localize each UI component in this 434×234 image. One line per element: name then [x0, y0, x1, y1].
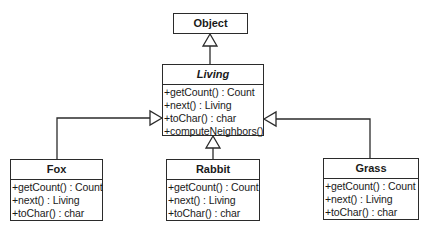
operation: +toChar() : char [325, 206, 418, 219]
class-grass[interactable]: Grass +getCount() : Count +next() : Livi… [323, 158, 419, 220]
class-object[interactable]: Object [173, 13, 248, 34]
class-name: Grass [324, 159, 418, 179]
operation: +next() : Living [325, 193, 418, 206]
fox-to-living-line [57, 118, 150, 159]
operation: +getCount() : Count [168, 181, 259, 194]
operation: +toChar() : char [12, 207, 102, 220]
operation: +getCount() : Count [164, 86, 263, 99]
operation: +next() : Living [164, 99, 263, 112]
class-living[interactable]: Living +getCount() : Count +next() : Liv… [162, 64, 264, 136]
operation: +toChar() : char [168, 207, 259, 220]
class-fox[interactable]: Fox +getCount() : Count +next() : Living… [10, 159, 103, 221]
grass-generalization-arrow-icon [264, 112, 276, 126]
operation: +getCount() : Count [325, 180, 418, 193]
operation: +getCount() : Count [12, 181, 102, 194]
grass-to-living-line [276, 119, 370, 158]
object-generalization-arrow-icon [203, 34, 217, 46]
class-name: Object [174, 14, 247, 33]
operations-compartment: +getCount() : Count +next() : Living +to… [11, 180, 102, 222]
class-name: Rabbit [167, 160, 259, 180]
class-name: Fox [11, 160, 102, 180]
class-rabbit[interactable]: Rabbit +getCount() : Count +next() : Liv… [166, 159, 260, 221]
operation: +computeNeighbors() [164, 125, 263, 138]
operations-compartment: +getCount() : Count +next() : Living +to… [324, 179, 418, 221]
fox-generalization-arrow-icon [150, 111, 162, 125]
operations-compartment: +getCount() : Count +next() : Living +to… [167, 180, 259, 222]
operation: +next() : Living [12, 194, 102, 207]
operations-compartment: +getCount() : Count +next() : Living +to… [163, 85, 263, 140]
operation: +next() : Living [168, 194, 259, 207]
class-name: Living [163, 65, 263, 85]
operation: +toChar() : char [164, 112, 263, 125]
